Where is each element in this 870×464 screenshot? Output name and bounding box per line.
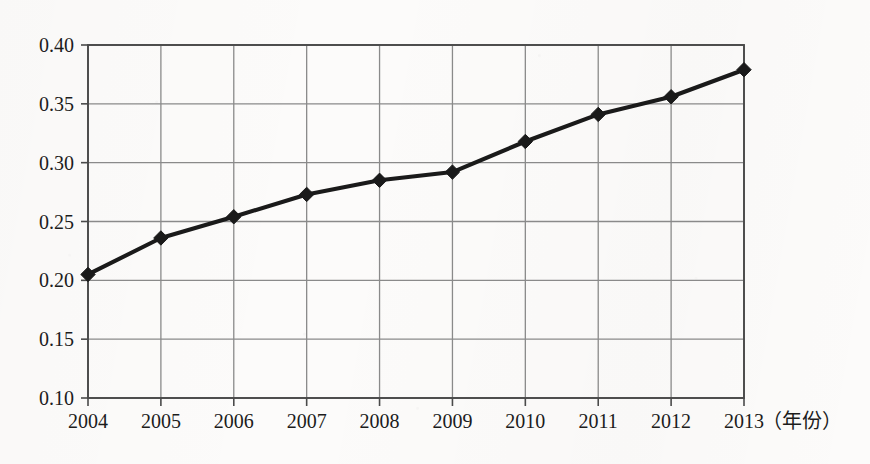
data-point-marker xyxy=(445,165,459,179)
grid-layer xyxy=(88,45,744,398)
data-series xyxy=(88,70,744,275)
data-point-marker xyxy=(299,187,313,201)
x-tick-label: 2012 xyxy=(651,410,691,432)
x-tick-label: 2009 xyxy=(432,410,472,432)
x-tick-label: 2011 xyxy=(579,410,618,432)
y-tick-label: 0.10 xyxy=(39,387,74,409)
x-axis-labels: 2004200520062007200820092010201120122013 xyxy=(68,410,764,432)
x-tick-label: 2013 xyxy=(724,410,764,432)
x-tick-label: 2010 xyxy=(505,410,545,432)
x-tick-label: 2004 xyxy=(68,410,108,432)
chart-page: 0.100.150.200.250.300.350.40 20042005200… xyxy=(0,0,870,464)
x-tick-label: 2008 xyxy=(360,410,400,432)
data-point-marker xyxy=(154,231,168,245)
x-axis-unit-label: （年份） xyxy=(762,410,842,432)
series-line xyxy=(88,70,744,275)
axis-ticks xyxy=(81,45,744,406)
x-tick-label: 2005 xyxy=(141,410,181,432)
y-tick-label: 0.35 xyxy=(39,93,74,115)
y-tick-label: 0.40 xyxy=(39,34,74,56)
data-point-marker xyxy=(591,107,605,121)
chart-svg: 0.100.150.200.250.300.350.40 20042005200… xyxy=(0,0,870,464)
data-point-marker xyxy=(737,63,751,77)
line-chart: 0.100.150.200.250.300.350.40 20042005200… xyxy=(0,0,870,464)
data-point-marker xyxy=(81,267,95,281)
x-tick-label: 2006 xyxy=(214,410,254,432)
y-axis-labels: 0.100.150.200.250.300.350.40 xyxy=(39,34,74,409)
y-tick-label: 0.25 xyxy=(39,211,74,233)
data-point-marker xyxy=(664,90,678,104)
y-tick-label: 0.15 xyxy=(39,328,74,350)
data-point-marker xyxy=(372,173,386,187)
y-tick-label: 0.20 xyxy=(39,269,74,291)
x-tick-label: 2007 xyxy=(287,410,327,432)
data-point-marker xyxy=(518,134,532,148)
y-tick-label: 0.30 xyxy=(39,152,74,174)
data-markers xyxy=(81,63,751,282)
x-axis-unit-text: （年份） xyxy=(762,410,842,432)
